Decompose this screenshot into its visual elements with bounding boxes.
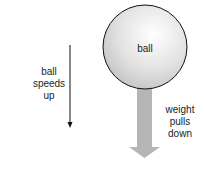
ball-label: ball [125, 43, 165, 55]
motion-label: ball speeds up [29, 66, 69, 102]
weight-arrow [129, 88, 160, 158]
force-label: weight pulls down [158, 104, 202, 140]
